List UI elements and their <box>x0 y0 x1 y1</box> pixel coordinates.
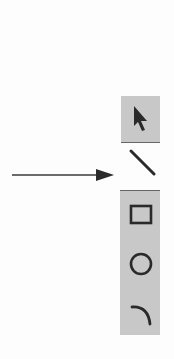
rectangle-tool-button[interactable]: rectangle <box>128 203 154 227</box>
circle-icon <box>128 251 154 277</box>
line-tool-button[interactable]: line <box>126 146 160 180</box>
rectangle-icon <box>128 203 154 227</box>
callout-arrow <box>10 166 116 184</box>
arc-icon <box>128 302 154 328</box>
arrow-pointer-icon <box>128 104 152 134</box>
arc-tool-button[interactable]: arc <box>128 302 154 328</box>
ellipse-tool-button[interactable]: ellipse <box>128 251 154 277</box>
line-icon <box>126 146 160 180</box>
select-tool-button[interactable]: select <box>128 104 152 134</box>
